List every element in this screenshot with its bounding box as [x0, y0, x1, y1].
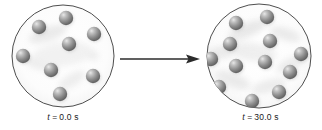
particle [86, 69, 100, 83]
container-after-svg [203, 4, 317, 112]
particle [223, 37, 237, 51]
particle [294, 47, 308, 61]
time-variable-after: t [242, 112, 245, 122]
particle [229, 59, 243, 73]
time-value-before: 0.0 [59, 112, 71, 122]
arrow-svg [118, 50, 204, 70]
time-unit-before: s [74, 112, 78, 122]
particle [53, 87, 67, 101]
transition-arrow [118, 50, 204, 70]
time-variable-before: t [47, 112, 50, 122]
particle [59, 11, 73, 25]
particle [258, 55, 272, 69]
particle [272, 85, 286, 99]
particle [44, 63, 58, 77]
container-before-svg [8, 4, 120, 110]
particle [87, 27, 101, 41]
container-before [8, 4, 120, 110]
time-unit-after: s [274, 112, 278, 122]
container-after [203, 4, 317, 112]
particle [229, 16, 243, 30]
particle [283, 65, 297, 79]
particle [212, 80, 226, 94]
particle [62, 37, 76, 51]
time-equals-before: = [52, 112, 57, 122]
particle [204, 52, 218, 66]
time-equals-after: = [247, 112, 252, 122]
diffusion-figure: t=0.0s [0, 0, 322, 130]
particle [245, 94, 259, 108]
caption-before: t=0.0s [8, 112, 118, 122]
particle [260, 10, 274, 24]
panel-before: t=0.0s [8, 0, 118, 130]
panel-after: t=30.0s [203, 0, 318, 130]
particle [263, 34, 277, 48]
particle [32, 20, 46, 34]
caption-after: t=30.0s [203, 112, 318, 122]
time-value-after: 30.0 [254, 112, 271, 122]
particle [16, 49, 30, 63]
